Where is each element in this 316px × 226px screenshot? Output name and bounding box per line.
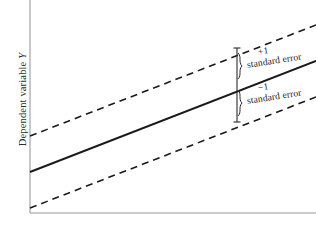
regression-figure: Dependent variable Y +1 standard error −… bbox=[0, 0, 316, 226]
y-axis-label: Dependent variable Y bbox=[17, 25, 28, 175]
upper-brace-icon bbox=[238, 53, 242, 79]
regression-line bbox=[30, 61, 316, 172]
y-axis-label-prefix: Dependent variable bbox=[17, 59, 28, 146]
upper-standard-error-band bbox=[30, 25, 316, 136]
lower-brace-icon bbox=[238, 90, 242, 116]
lower-standard-error-band bbox=[30, 97, 316, 208]
plot-canvas bbox=[0, 0, 316, 226]
y-axis-label-variable: Y bbox=[17, 53, 28, 59]
